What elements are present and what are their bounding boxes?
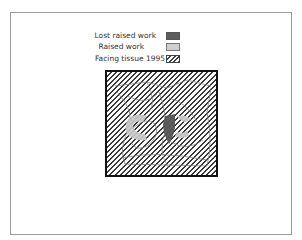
legend-label: Facing tissue 1995 (95, 54, 165, 64)
object-outline-overlay (107, 72, 218, 177)
legend-item-facing-tissue: Facing tissue 1995 (60, 54, 165, 64)
legend-item-raised-work: Raised work (60, 42, 156, 52)
hatched-object-drawing (105, 70, 218, 177)
legend-item-lost-raised-work: Lost raised work (60, 31, 162, 41)
facing-tissue-swatch (166, 55, 180, 63)
legend-label: Lost raised work (95, 31, 156, 41)
legend-label: Raised work (98, 42, 144, 52)
lost-raised-work-swatch (166, 32, 180, 40)
raised-work-swatch (166, 43, 180, 51)
